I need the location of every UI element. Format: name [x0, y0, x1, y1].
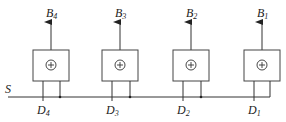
s-bus-label: S [5, 82, 11, 96]
junction-dot [200, 96, 203, 99]
input-label-d4: D4 [36, 103, 50, 118]
input-label-d2: D2 [176, 103, 190, 118]
xor-cell-2: B2 D2 [173, 6, 209, 118]
input-label-d1: D1 [247, 103, 261, 118]
input-label-d3: D3 [105, 103, 119, 118]
output-label-b1: B1 [257, 6, 268, 21]
xor-cell-4: B4 D4 [33, 6, 69, 118]
junction-dot [129, 96, 132, 99]
output-label-b4: B4 [46, 6, 57, 21]
output-label-b3: B3 [115, 6, 126, 21]
junction-dot [59, 96, 62, 99]
xor-cell-1: B1 D1 [244, 6, 280, 118]
output-label-b2: B2 [186, 6, 197, 21]
xor-cell-3: B3 D3 [102, 6, 138, 118]
xor-chain-diagram: S B4 D4 B3 D3 B2 D2 [0, 0, 286, 122]
